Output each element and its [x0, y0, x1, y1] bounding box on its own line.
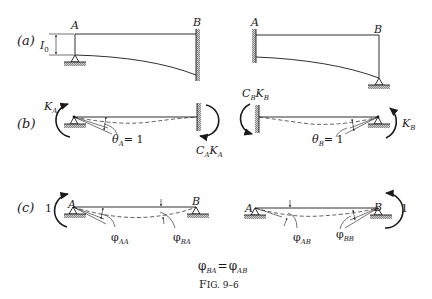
pin-support-b [368, 78, 390, 89]
moment-arrow-carryover-a [200, 105, 219, 136]
angle-phi-bb-label: φBB [336, 228, 354, 243]
panel-a: (a) A B I0 [17, 16, 390, 89]
moment-kb-label: KB [401, 117, 415, 132]
fixed-support-a [252, 29, 256, 63]
fixed-support-b [196, 29, 200, 81]
node-a-label: A [70, 19, 79, 32]
node-a-label: A [250, 16, 259, 29]
pin-support-a [64, 55, 86, 66]
angle-phi-aa-label: φAA [111, 231, 129, 246]
reciprocity-equation: φBA=φAB [198, 259, 247, 275]
panel-b-right-beam: CBKB θB= 1 KB [240, 87, 415, 148]
node-b-label: B [373, 23, 382, 36]
angle-phi-ba-label: φBA [173, 231, 191, 246]
carryover-ca-ka-label: CAKA [196, 144, 223, 159]
figure-9-6: (a) A B I0 [0, 0, 432, 299]
unit-moment-label: 1 [401, 202, 408, 215]
figure-caption: FIG. 9–6 [199, 278, 239, 291]
panel-c-label: (c) [17, 200, 34, 215]
panel-b-left-beam: KA θA= 1 CAKA [43, 100, 223, 159]
moment-ka-label: KA [43, 100, 57, 115]
moment-arrow-kb [386, 108, 396, 138]
panel-c-right-beam: A B 1 φAB [244, 193, 408, 246]
node-b-label: B [191, 195, 200, 208]
fixed-support-b [197, 103, 201, 131]
panel-b-label: (b) [17, 116, 35, 131]
panel-a-label: (a) [17, 33, 35, 48]
rotation-theta-a-label: θA= 1 [112, 133, 143, 148]
panel-a-left-beam: A B I0 [39, 16, 201, 81]
panel-c: (c) 1 A B [17, 193, 408, 246]
pin-support-b [187, 207, 209, 218]
node-b-label: B [192, 16, 201, 29]
dimension-i0-label: I0 [39, 39, 49, 54]
carryover-cb-kb-label: CBKB [242, 87, 269, 102]
panel-c-left-beam: 1 A B φAA [45, 194, 209, 246]
panel-b: (b) KA θA= 1 [17, 87, 415, 159]
rotation-theta-b-label: θB= 1 [312, 133, 344, 148]
moment-arrow-ka [56, 104, 70, 137]
unit-moment-label: 1 [45, 202, 52, 215]
moment-arrow-carryover-b [240, 104, 252, 134]
unit-moment-arrow [55, 194, 68, 227]
panel-a-right-beam: A B [250, 16, 390, 89]
fixed-support-a [255, 105, 259, 133]
angle-phi-ab-label: φAB [293, 231, 311, 246]
